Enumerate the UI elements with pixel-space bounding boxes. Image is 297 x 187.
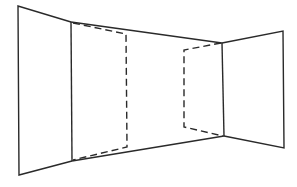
left-wall-panel	[18, 6, 72, 175]
right-wall-panel	[222, 31, 284, 148]
right-dashed-panel	[184, 43, 223, 136]
left-inner-edge	[71, 22, 72, 161]
right-inner-edge	[222, 43, 224, 136]
floor-line	[72, 136, 224, 161]
corridor-diagram	[0, 0, 297, 187]
left-dashed-panel	[73, 23, 127, 160]
ceiling-line	[71, 22, 222, 43]
